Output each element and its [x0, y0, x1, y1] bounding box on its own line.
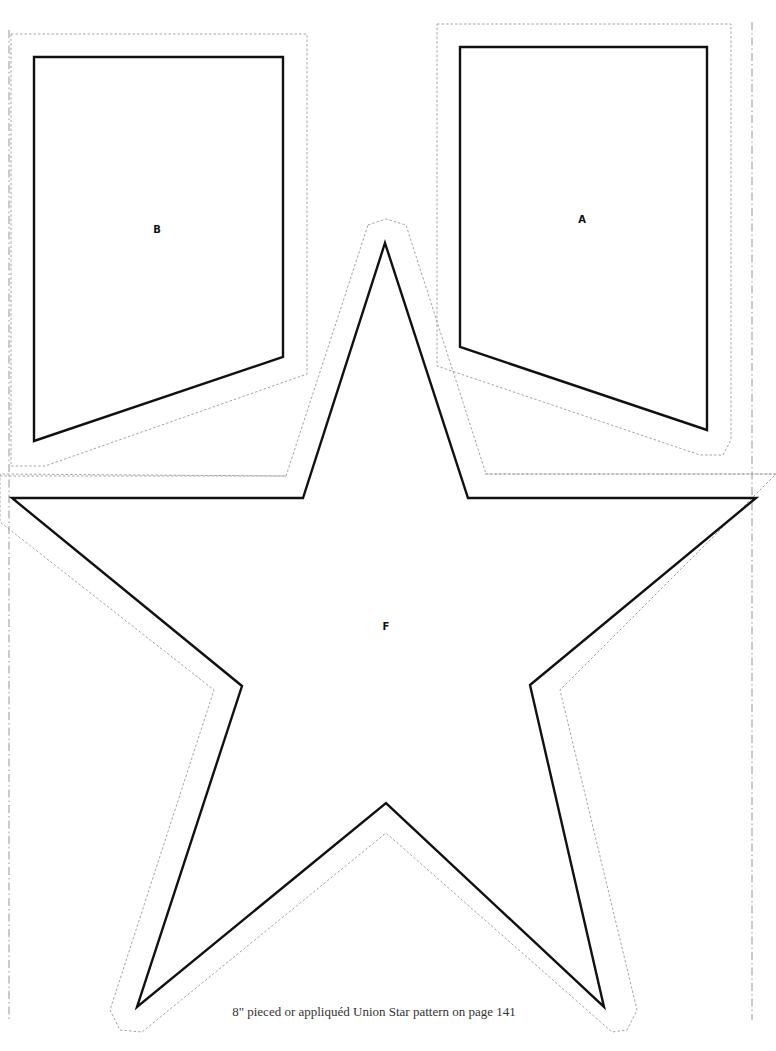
piece-a-seam-allowance — [437, 24, 731, 455]
piece-b — [11, 34, 307, 466]
fold-lines — [9, 22, 752, 1020]
piece-b-label: B — [153, 224, 161, 235]
piece-b-cutting-line — [34, 57, 283, 441]
piece-f-label: F — [383, 621, 390, 632]
pattern-caption: 8" pieced or appliquéd Union Star patter… — [232, 1004, 516, 1020]
piece-a-label: A — [578, 214, 586, 225]
pattern-page: B A F 8" pieced or appliquéd Union Star … — [0, 0, 776, 1051]
piece-a-cutting-line — [460, 47, 707, 430]
pattern-drawing — [0, 0, 776, 1051]
piece-a — [437, 24, 731, 455]
piece-b-seam-allowance — [11, 34, 307, 466]
